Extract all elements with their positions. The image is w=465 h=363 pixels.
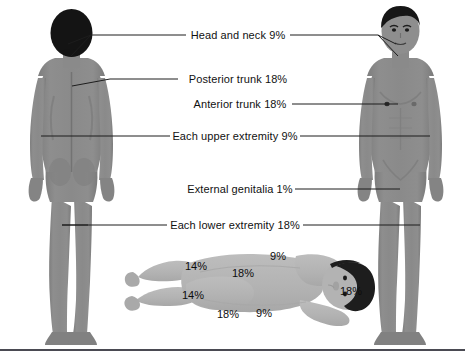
rule-of-nines-diagram: Head and neck 9% Posterior trunk 18% Ant… [0,0,465,363]
infant-percentage-layer: 14% 18% 9% 14% 18% 18% 9% [0,0,465,363]
infant-pct-leg: 18% [217,308,239,320]
infant-pct-upper-arm: 14% [185,260,207,272]
bottom-divider-rule [0,349,465,351]
infant-pct-posterior-trunk: 18% [232,267,254,279]
infant-pct-buttock: 9% [256,307,272,319]
infant-pct-head: 18% [340,285,362,297]
infant-pct-upper-back-shoulder: 9% [270,250,286,262]
infant-pct-lower-arm: 14% [182,289,204,301]
